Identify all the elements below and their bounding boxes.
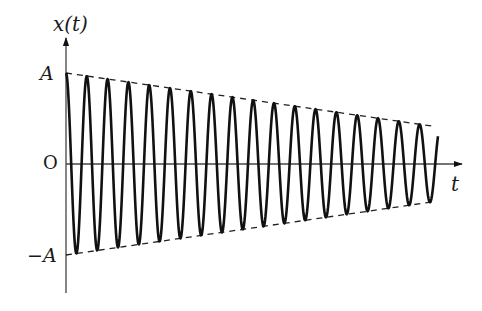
plot-canvas (0, 0, 482, 311)
amplitude-top-label: A (40, 64, 54, 83)
oscillation-curve (66, 73, 438, 253)
amplitude-bottom-label: −A (27, 246, 57, 265)
damped-oscillation-diagram: x(t) A O −A t (0, 0, 482, 311)
origin-label: O (43, 154, 58, 172)
x-axis-label: t (451, 174, 459, 194)
y-axis-label: x(t) (53, 14, 88, 34)
